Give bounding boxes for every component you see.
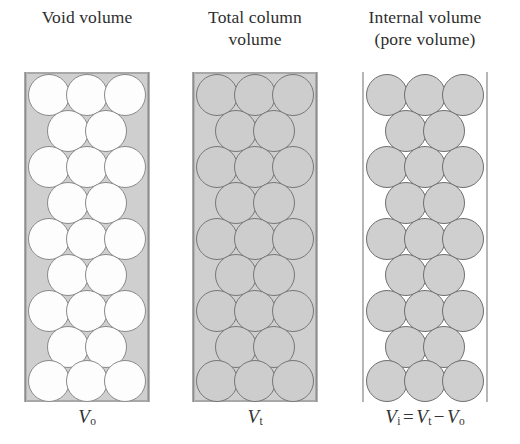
bead-packing	[362, 72, 488, 402]
caption-line-2: volume	[170, 28, 340, 50]
bead	[104, 360, 146, 402]
formula-total-volume: Vt	[170, 406, 340, 428]
panel-internal-pore-volume: Internal volume (pore volume)	[340, 0, 510, 444]
formula-equals: =	[400, 406, 416, 427]
formula-symbol-Vt: V	[416, 406, 428, 427]
formula-subscript-o: o	[459, 415, 465, 427]
bead-packing	[192, 72, 318, 402]
column-wall-left	[362, 72, 364, 402]
column-internal-volume	[362, 72, 488, 402]
column-wall-left	[24, 72, 27, 402]
formula-subscript: t	[259, 415, 263, 427]
panel-caption: Internal volume (pore volume)	[340, 6, 510, 50]
bead	[442, 360, 484, 402]
panel-total-column-volume: Total column volume	[170, 0, 340, 444]
formula-symbol-V: V	[78, 406, 90, 427]
bead	[366, 360, 408, 402]
formula-subscript: o	[90, 415, 96, 427]
formula-symbol-Vo: V	[447, 406, 459, 427]
bead	[272, 360, 314, 402]
column-wall-right	[486, 72, 488, 402]
caption-line-2: (pore volume)	[340, 28, 510, 50]
bead	[404, 360, 446, 402]
bead-packing	[24, 72, 150, 402]
panel-caption: Total column volume	[170, 6, 340, 50]
column-wall-right	[315, 72, 318, 402]
column-wall-right	[147, 72, 150, 402]
panel-caption: Void volume	[2, 6, 172, 28]
formula-minus: −	[431, 406, 447, 427]
column-wall-left	[192, 72, 195, 402]
formula-void-volume: Vo	[2, 406, 172, 428]
figure-canvas: Void volume	[0, 0, 520, 444]
bead	[196, 360, 238, 402]
bead	[66, 360, 108, 402]
caption-line-1: Void volume	[42, 7, 133, 27]
formula-symbol-V: V	[247, 406, 259, 427]
caption-line-1: Total column	[208, 7, 302, 27]
formula-internal-volume: Vi=Vt−Vo	[340, 406, 510, 428]
panel-void-volume: Void volume	[2, 0, 172, 444]
formula-symbol-Vi: V	[385, 406, 397, 427]
column-total-volume	[192, 72, 318, 402]
bead	[234, 360, 276, 402]
bead	[28, 360, 70, 402]
caption-line-1: Internal volume	[369, 7, 482, 27]
column-void-volume	[24, 72, 150, 402]
